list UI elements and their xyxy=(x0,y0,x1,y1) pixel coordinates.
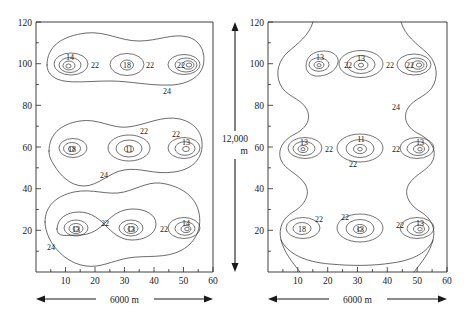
right-bottom-p2-center-label: 13 xyxy=(356,225,364,234)
left-x-label-20: 20 xyxy=(90,276,100,286)
left-top-outer-label: 24 xyxy=(163,87,171,96)
right-bottom-p3-center-label: 13 xyxy=(416,219,424,228)
left-middle-outer-label: 24 xyxy=(100,171,108,180)
right-top-outer-label: 24 xyxy=(392,103,400,112)
vertical-scale-label-unit: m xyxy=(241,146,249,156)
right-bottom-p1-center-label: 18 xyxy=(298,225,306,234)
right-bottom-p2-ring-label: 22 xyxy=(341,213,349,222)
right-horizontal-scale-label: 6000 m xyxy=(343,295,372,305)
right-top-p3-center-label: 22 xyxy=(406,61,414,70)
left-x-label-30: 30 xyxy=(120,276,130,286)
right-middle-p2-ring-label: 22 xyxy=(349,160,357,169)
right-x-label-40: 40 xyxy=(383,276,393,286)
right-x-ticks xyxy=(283,267,447,272)
left-y-ticks xyxy=(36,22,41,251)
left-x-ticks xyxy=(51,267,213,272)
left-panel: 120 100 80 60 40 20 10 20 30 40 50 60 xyxy=(18,18,218,307)
left-x-label-40: 40 xyxy=(149,276,159,286)
left-x-label-60: 60 xyxy=(208,276,218,286)
left-top-p2-ring-label: 22 xyxy=(146,61,154,70)
left-bottom-p3-center-label: 14 xyxy=(182,219,190,228)
right-bottom-p1-ring-label: 22 xyxy=(315,215,323,224)
left-x-label-50: 50 xyxy=(179,276,189,286)
right-y-label-40: 40 xyxy=(255,184,265,194)
right-x-label-60: 60 xyxy=(442,276,452,286)
right-middle-p1-ring-label: 22 xyxy=(325,145,333,154)
left-y-label-40: 40 xyxy=(23,184,33,194)
left-top-p3-center-label: 22 xyxy=(177,61,185,70)
left-top-p1-center-label: 14 xyxy=(66,53,74,62)
right-y-ticks xyxy=(268,22,273,251)
right-top-p2-center-label: 13 xyxy=(357,54,365,63)
left-y-label-60: 60 xyxy=(23,143,33,153)
left-middle-p3-ring-label: 22 xyxy=(172,130,180,139)
left-bottom-p2-ring-label: 22 xyxy=(160,225,168,234)
left-bottom-outer-label: 24 xyxy=(47,243,55,252)
right-y-label-100: 100 xyxy=(250,59,265,69)
right-bottom-closure xyxy=(281,240,433,265)
left-y-label-100: 100 xyxy=(18,59,33,69)
right-x-label-20: 20 xyxy=(323,276,333,286)
vertical-scale-label-value: 12,000 xyxy=(222,134,248,144)
left-top-p1-ring-label: 22 xyxy=(91,61,99,70)
right-middle-p3-ring-label: 22 xyxy=(392,145,400,154)
right-y-label-60: 60 xyxy=(255,143,265,153)
left-bottom-p1-center-label: 13 xyxy=(72,225,80,234)
left-bottom-p2-center-label: 13 xyxy=(127,225,135,234)
right-y-label-80: 80 xyxy=(255,101,265,111)
right-middle-p3-center-label: 13 xyxy=(416,138,424,147)
left-middle-p2-center-label: 11 xyxy=(125,145,133,154)
left-y-label-120: 120 xyxy=(18,18,33,28)
left-top-p2-center-label: 18 xyxy=(123,61,131,70)
right-top-p2-ring-label: 22 xyxy=(386,61,394,70)
left-middle-p1-center-label: 18 xyxy=(68,145,76,154)
right-middle-p1-center-label: 13 xyxy=(300,138,308,147)
right-x-label-50: 50 xyxy=(412,276,422,286)
left-y-label-80: 80 xyxy=(23,101,33,111)
left-bottom-p1-ring-label: 22 xyxy=(101,219,109,228)
left-y-label-20: 20 xyxy=(23,226,33,236)
right-x-label-30: 30 xyxy=(353,276,363,286)
right-top-peak-3 xyxy=(397,54,431,75)
contour-figure: 120 100 80 60 40 20 10 20 30 40 50 60 xyxy=(0,0,465,320)
right-middle-p2-center-label: 11 xyxy=(357,135,365,144)
right-top-p1-center-label: 13 xyxy=(316,53,324,62)
left-x-label-10: 10 xyxy=(61,276,71,286)
right-top-p1-ring-label: 22 xyxy=(344,61,352,70)
right-panel: 120 100 80 60 40 20 10 20 30 40 50 60 xyxy=(250,18,452,307)
left-middle-p3-center-label: 13 xyxy=(182,138,190,147)
right-y-label-20: 20 xyxy=(255,226,265,236)
left-middle-p2-ring-label: 22 xyxy=(140,127,148,136)
right-x-label-10: 10 xyxy=(293,276,303,286)
left-horizontal-scale-label: 6000 m xyxy=(110,295,139,305)
right-y-label-120: 120 xyxy=(250,18,265,28)
right-bottom-p3-ring-label: 22 xyxy=(396,221,404,230)
